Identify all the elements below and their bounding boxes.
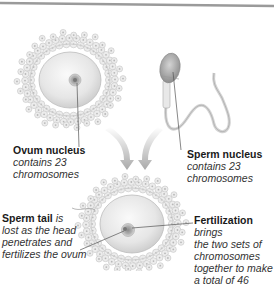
ovum-nucleus-line1: contains 23 [13,156,67,168]
sperm-tail-title-suffix: is [53,212,64,224]
fertilization-line2: chromosomes [194,250,260,262]
sperm-nucleus-label: Sperm nucleus contains 23 chromosomes [187,148,262,184]
ovum-illustration [14,29,126,130]
fertilization-label: Fertilization brings the two sets of chr… [194,214,274,286]
fertilization-line4: a total of 46 [194,274,249,286]
sperm-tail-line1: lost as the head [2,224,76,236]
fertilization-title-suffix: brings [194,226,223,238]
sperm-tail-label: Sperm tail is lost as the head penetrate… [2,212,87,260]
fertilization-line3: together to make [194,262,273,274]
sperm-tail-title: Sperm tail [2,212,53,224]
fertilization-line1: the two sets of [194,238,262,250]
sperm-nucleus-line2: chromosomes [187,172,253,184]
sperm-illustration [158,51,230,131]
ovum-nucleus-title: Ovum nucleus [13,144,85,156]
sperm-tail-line3: fertilizes the ovum [2,248,87,260]
sperm-tail-line2: penetrates and [2,236,72,248]
sperm-leader-line [173,72,181,150]
fertilization-title: Fertilization [194,214,253,226]
sperm-nucleus-line1: contains 23 [187,160,241,172]
ovum-nucleus-line2: chromosomes [13,168,79,180]
down-arrow-icon [105,127,163,170]
fertilized-ovum-illustration [72,173,189,271]
sperm-nucleus-title: Sperm nucleus [187,148,262,160]
ovum-nucleus-label: Ovum nucleus contains 23 chromosomes [13,144,85,180]
top-rule [0,3,274,6]
